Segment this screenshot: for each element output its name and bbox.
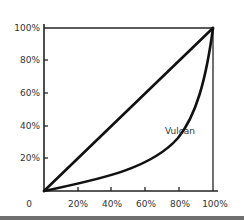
y-label-60: 60% xyxy=(20,88,40,98)
x-label-40: 40% xyxy=(102,199,122,209)
x-label-80: 80% xyxy=(170,199,190,209)
y-label-100: 100% xyxy=(14,23,40,33)
bottom-rule xyxy=(0,216,244,220)
equality-line xyxy=(44,28,213,191)
y-label-80: 80% xyxy=(20,55,40,65)
x-label-60: 60% xyxy=(136,199,156,209)
x-label-20: 20% xyxy=(68,199,88,209)
y-label-20: 20% xyxy=(20,153,40,163)
x-label-100: 100% xyxy=(202,199,228,209)
x-label-0: 0 xyxy=(26,199,32,209)
y-label-40: 40% xyxy=(20,121,40,131)
vulcan-label: Vulcan xyxy=(165,126,195,136)
lorenz-chart: 100% 80% 60% 40% 20% 0 20% 40% 60% 80% 1… xyxy=(0,0,244,220)
